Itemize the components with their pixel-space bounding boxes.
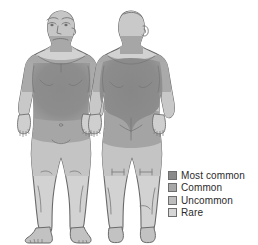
legend-swatch-most-common <box>168 171 177 180</box>
posterior-neck-region <box>120 36 143 54</box>
legend-swatch-common <box>168 183 177 192</box>
legend-swatch-rare <box>168 208 177 217</box>
legend-swatch-uncommon <box>168 196 177 205</box>
posterior-view-figure <box>88 8 176 243</box>
legend-item-uncommon[interactable]: Uncommon <box>168 194 256 206</box>
legend-label-most-common: Most common <box>181 170 245 181</box>
posterior-feet <box>108 227 155 243</box>
anterior-chest-abdomen-region <box>32 63 91 121</box>
anterior-right-eye <box>64 24 67 26</box>
legend-label-uncommon: Uncommon <box>181 195 233 206</box>
anterior-feet <box>25 227 91 243</box>
legend-label-rare: Rare <box>181 207 203 218</box>
legend-item-rare[interactable]: Rare <box>168 207 256 219</box>
legend-item-most-common[interactable]: Most common <box>168 170 256 182</box>
anterior-left-eye <box>50 24 53 26</box>
legend-label-common: Common <box>181 182 222 193</box>
legend: Most common Common Uncommon Rare <box>168 170 256 219</box>
legend-item-common[interactable]: Common <box>168 182 256 194</box>
diagram-container: Most common Common Uncommon Rare <box>0 0 258 245</box>
